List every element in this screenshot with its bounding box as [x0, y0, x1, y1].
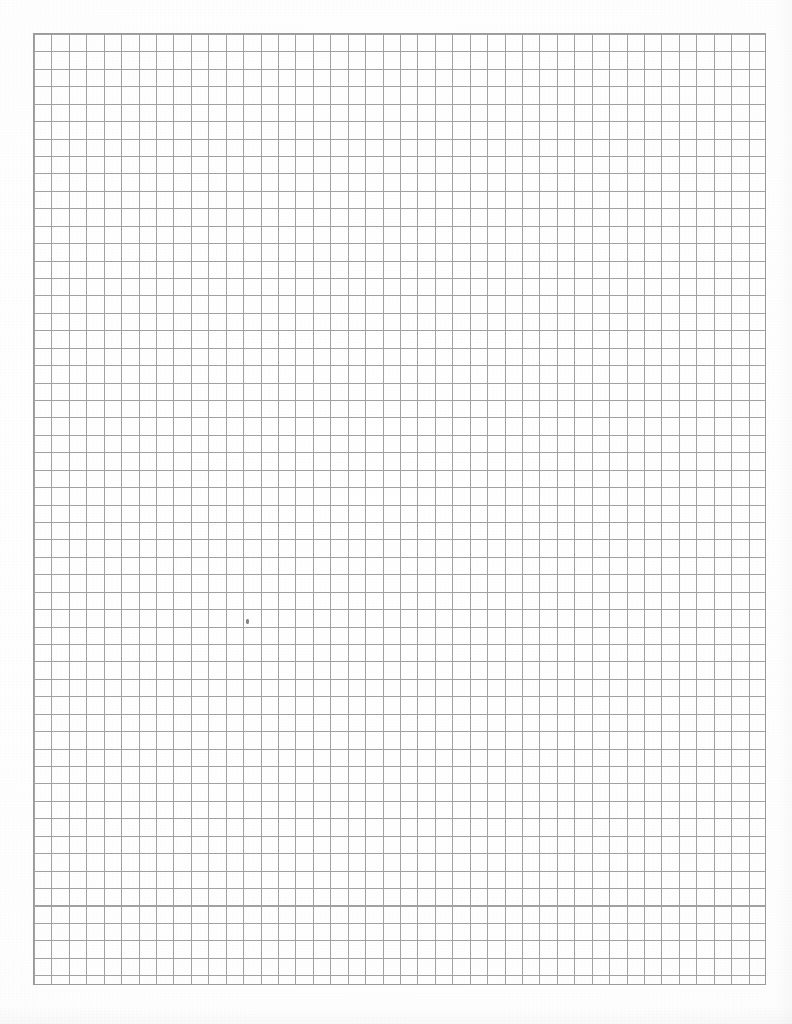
grid-lines	[34, 34, 765, 984]
graph-paper-page	[0, 0, 792, 1024]
graph-grid-area	[33, 33, 766, 985]
pencil-speck	[246, 619, 249, 624]
